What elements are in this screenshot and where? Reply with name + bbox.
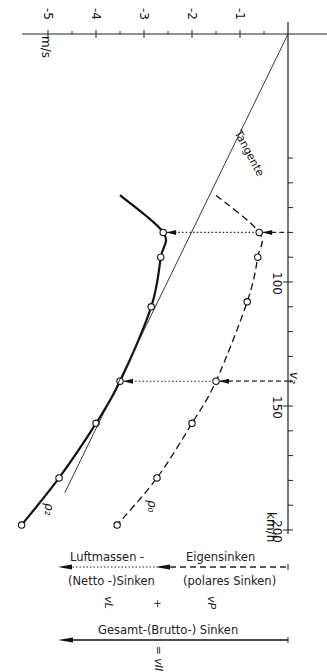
rho0-label: ρ₀ [145,500,159,512]
arrowhead [166,230,176,235]
legend-total-title: Gesamt-(Brutto-) Sinken [98,623,238,637]
symbol-plus: + [151,599,164,608]
data-point [114,522,120,528]
data-point [244,299,250,305]
data-point [148,304,154,310]
data-point [56,475,62,481]
data-point [160,229,166,235]
symbol-vp: vP [205,596,218,609]
rho2-label: ρ₂ [42,503,56,515]
y-tick-label: -3 [137,8,151,20]
x-tick-label: 100 [270,272,284,295]
x-axis-unit: km/h [264,512,278,542]
y-axis-unit: m/s [39,36,53,58]
legend-own-title: Eigensinken [186,550,255,564]
data-point [256,229,262,235]
series-layer [18,34,288,528]
data-point [189,420,195,426]
v2-axis-marker: v₂ [287,372,301,384]
y-tick-label: -4 [89,8,103,20]
arrowhead [123,379,133,384]
data-point [154,475,160,481]
y-tick-label: -2 [185,8,199,20]
tangent-line [65,34,288,493]
data-point [255,254,261,260]
data-point [213,378,219,384]
y-tick-label: -1 [233,8,247,20]
arrowhead [262,230,272,235]
legend-airmass-title: Luftmassen - [70,550,144,564]
y-tick-label: -5 [41,8,55,20]
symbol-vii: = vII [152,646,165,672]
legend-airmass-subtitle: (Netto -)Sinken [68,574,155,588]
data-point [158,254,164,260]
rho2-curve [22,195,166,525]
legend-own-subtitle: (polares Sinken) [183,574,276,588]
arrowhead [219,379,229,384]
symbol-vl: vL [102,596,115,609]
data-point [18,522,24,528]
legend-arrowhead [155,565,170,570]
rho0-curve [117,195,262,525]
polar-chart [0,0,327,672]
legend-arrowhead [58,565,72,570]
legend-arrowhead [58,638,73,643]
x-tick-label: 150 [270,396,284,419]
